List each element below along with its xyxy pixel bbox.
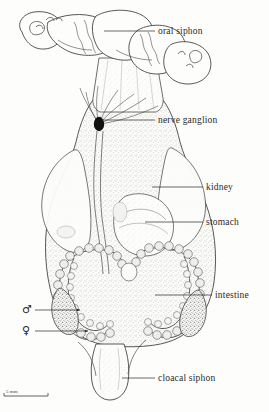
label-cloacal-siphon: cloacal siphon — [158, 374, 215, 384]
label-stomach: stomach — [206, 218, 239, 228]
label-kidney: kidney — [206, 183, 233, 193]
male-symbol: ♂ — [22, 304, 32, 315]
label-oral-siphon: oral siphon — [158, 27, 203, 37]
nerve-ganglion-organ — [94, 117, 104, 131]
label-intestine: intestine — [215, 291, 249, 301]
tunicate-illustration — [0, 0, 269, 412]
cloacal-siphon-organ — [91, 344, 129, 400]
anatomy-figure: oral siphonnerve ganglionkidneystomachin… — [0, 0, 269, 412]
scale-bar-caption: 5 mm — [6, 389, 18, 394]
female-symbol: ♀ — [22, 325, 30, 336]
label-nerve-ganglion: nerve ganglion — [158, 116, 218, 126]
